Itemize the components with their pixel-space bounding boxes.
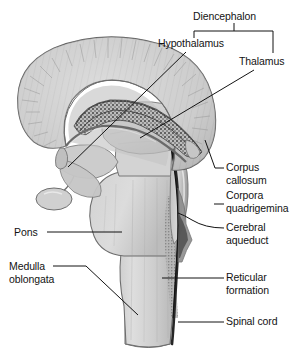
label-corpus-callosum-line1: Corpus [226, 161, 259, 174]
illustration-body [16, 33, 218, 347]
label-reticular-formation-line2: formation [226, 284, 269, 297]
label-spinal-cord: Spinal cord [226, 315, 277, 328]
label-cerebral-aqueduct-line1: Cerebral [226, 221, 265, 234]
brain-anatomy-figure: Diencephalon Hypothalamus Thalamus Corpu… [0, 0, 298, 352]
label-pons: Pons [14, 226, 38, 239]
pons-shape [90, 172, 178, 256]
label-hypothalamus: Hypothalamus [158, 37, 224, 50]
label-thalamus: Thalamus [239, 55, 284, 68]
pituitary-gland [36, 188, 72, 210]
label-diencephalon: Diencephalon [193, 10, 256, 23]
label-reticular-formation-line1: Reticular [226, 271, 267, 284]
label-medulla-line1: Medulla [9, 260, 45, 273]
label-cerebral-aqueduct-line2: aqueduct [226, 234, 268, 247]
label-corpus-callosum-line2: callosum [226, 174, 267, 187]
septum-notch [56, 148, 68, 169]
label-medulla-line2: oblongata [9, 273, 54, 286]
label-corpora-quadrigemina-line2: quadrigemina [226, 202, 288, 215]
label-corpora-quadrigemina-line1: Corpora [226, 189, 263, 202]
